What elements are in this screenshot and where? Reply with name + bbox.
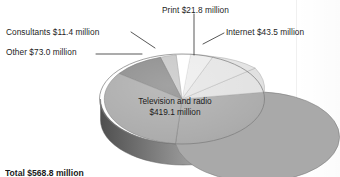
label-internet: Internet $43.5 million <box>226 27 304 37</box>
chart-caption-clipped: Total $568.8 million <box>5 169 155 177</box>
leader-line-internet <box>203 33 224 44</box>
label-other: Other $73.0 million <box>6 47 77 57</box>
label-consultants: Consultants $11.4 million <box>6 27 99 37</box>
label-television-radio-line1: Television and radio <box>111 96 239 107</box>
label-television-radio: Television and radio $419.1 million <box>111 96 239 117</box>
label-television-radio-line2: $419.1 million <box>111 107 239 118</box>
pie-chart-figure: Print $21.8 million Internet $43.5 milli… <box>0 0 340 177</box>
leader-lines <box>96 14 224 55</box>
leader-line-consultants <box>131 32 155 48</box>
chart-caption-text: Total $568.8 million <box>5 169 84 177</box>
label-print: Print $21.8 million <box>162 5 229 15</box>
